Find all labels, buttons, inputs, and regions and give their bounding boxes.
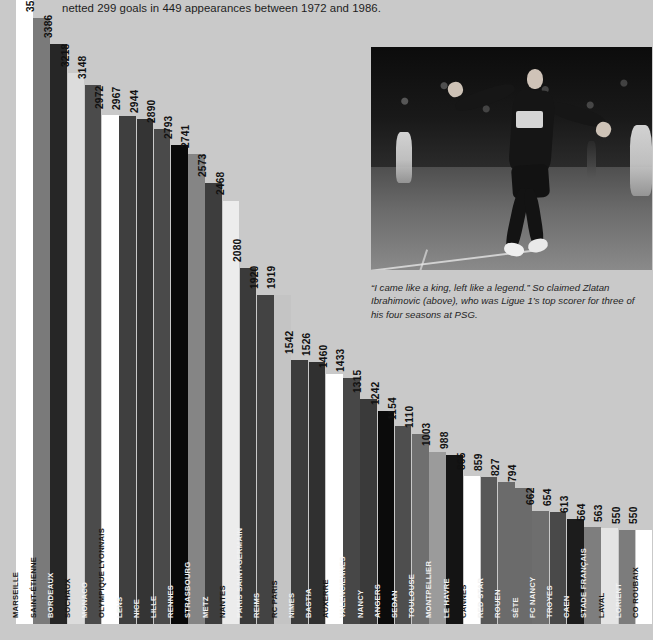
- bar-category-label: CO ROUBAIX: [631, 567, 640, 618]
- bar-column[interactable]: 2573METZ: [205, 0, 222, 624]
- bar-column[interactable]: 2741STRASBOURG: [188, 0, 205, 624]
- bar-column[interactable]: 2793RENNES: [171, 0, 188, 624]
- bar-category-label: RENNES: [166, 585, 175, 618]
- opponent-player-left: [396, 132, 411, 183]
- bar-value-label: 2741: [180, 125, 191, 148]
- bar-category-label: LE HAVRE: [442, 578, 451, 618]
- bar-value-label: 3218: [60, 43, 71, 66]
- photo-caption: “I came like a king, left like a legend.…: [371, 281, 647, 321]
- bar-column[interactable]: 1460AUXERRE: [326, 0, 343, 624]
- bar-value-label: 564: [576, 504, 587, 522]
- player-boot-left: [503, 241, 525, 258]
- bar-value-label: 1920: [249, 265, 260, 288]
- bar-column[interactable]: 2944NICE: [137, 0, 154, 624]
- bar-value-label: 613: [559, 495, 570, 513]
- bar-column[interactable]: 1920REIMS: [257, 0, 274, 624]
- bar-value-label: 2080: [232, 238, 243, 261]
- bar-column[interactable]: 3536SAINT-ÉTIENNE: [33, 0, 50, 624]
- bar-value-label: 2890: [146, 99, 157, 122]
- bar-value-label: 1433: [335, 349, 346, 372]
- bar-value-label: 2468: [215, 172, 226, 195]
- bar-value-label: 1542: [284, 330, 295, 353]
- bar-value-label: 865: [456, 452, 467, 470]
- bar-column[interactable]: 3386BORDEAUX: [50, 0, 67, 624]
- bar-rect[interactable]: [291, 360, 308, 624]
- bar-rect[interactable]: [119, 116, 136, 624]
- bar-column[interactable]: 1542NIMES: [291, 0, 308, 624]
- bar-value-label: 1315: [352, 369, 363, 392]
- bar-category-label: LILLE: [149, 596, 158, 618]
- bar-value-label: 1242: [370, 382, 381, 405]
- player-head: [527, 69, 543, 89]
- bar-category-label: BASTIA: [304, 588, 313, 618]
- bar-value-label: 2793: [163, 116, 174, 139]
- bar-category-label: METZ: [201, 596, 210, 618]
- bar-value-label: 662: [525, 487, 536, 505]
- bar-category-label: SAINT-ÉTIENNE: [29, 557, 38, 618]
- bar-value-label: 654: [542, 488, 553, 506]
- bar-category-label: STRASBOURG: [183, 561, 192, 618]
- bar-rect[interactable]: [33, 18, 50, 624]
- bar-value-label: 1154: [387, 397, 398, 420]
- bar-category-label: MONACO: [80, 582, 89, 618]
- bar-category-label: SEDAN: [390, 590, 399, 618]
- bar-category-label: PARIS SAINT-GERMAIN: [235, 528, 244, 618]
- bar-category-label: FC NANCY: [528, 577, 537, 618]
- bar-category-label: MONTPELLIER: [424, 561, 433, 618]
- opponent-player-right: [630, 125, 652, 196]
- player-photo: [371, 47, 652, 270]
- bar-value-label: 827: [490, 459, 501, 477]
- bar-value-label: 1003: [421, 423, 432, 446]
- bar-rect[interactable]: [50, 44, 67, 624]
- bar-category-label: NANCY: [356, 590, 365, 618]
- bar-column[interactable]: 2080PARIS SAINT-GERMAIN: [240, 0, 257, 624]
- photo-stage: [371, 47, 652, 270]
- bar-category-label: STADE FRANÇAIS: [579, 548, 588, 618]
- bar-value-label: 1110: [404, 405, 415, 427]
- bar-rect[interactable]: [171, 145, 188, 624]
- bar-rect[interactable]: [257, 295, 274, 624]
- bar-column[interactable]: 1433VALENCIENNES: [343, 0, 360, 624]
- bar-category-label: NANTES: [218, 585, 227, 618]
- jersey-sponsor-logo: [516, 111, 543, 128]
- bar-category-label: MARSEILLE: [11, 572, 20, 618]
- bar-category-label: CANNES: [459, 584, 468, 618]
- bar-category-label: RC PARIS: [270, 580, 279, 618]
- bar-rect[interactable]: [16, 0, 33, 624]
- bar-rect[interactable]: [205, 183, 222, 624]
- bar-category-label: TROYES: [545, 585, 554, 618]
- bar-category-label: LENS: [115, 597, 124, 618]
- bar-category-label: CAEN: [562, 595, 571, 618]
- bar-value-label: 1919: [266, 266, 277, 289]
- bar-value-label: 3386: [43, 14, 54, 37]
- bar-column[interactable]: 3218SOCHAUX: [68, 0, 85, 624]
- bar-value-label: 3536: [25, 0, 36, 12]
- bar-category-label: RED STAR: [476, 578, 485, 618]
- bar-column[interactable]: 1526BASTIA: [309, 0, 326, 624]
- bar-value-label: 794: [507, 464, 518, 482]
- bar-category-label: SOCHAUX: [63, 578, 72, 618]
- bar-rect[interactable]: [154, 129, 171, 624]
- bar-category-label: VALENCIENNES: [338, 556, 347, 618]
- pitch-line-secondary: [418, 250, 428, 270]
- bar-category-label: REIMS: [252, 593, 261, 618]
- bar-rect[interactable]: [68, 73, 85, 625]
- page-root: netted 299 goals in 449 appearances betw…: [0, 0, 653, 640]
- bar-category-label: BORDEAUX: [46, 573, 55, 618]
- bar-rect[interactable]: [137, 119, 154, 624]
- bar-rect[interactable]: [188, 154, 205, 624]
- bar-value-label: 563: [593, 504, 604, 522]
- bar-column[interactable]: 1919RC PARIS: [274, 0, 291, 624]
- bar-column[interactable]: 3641MARSEILLE: [16, 0, 33, 624]
- bar-category-label: LAVAL: [597, 593, 606, 618]
- bar-column[interactable]: 2890LILLE: [154, 0, 171, 624]
- bar-value-label: 2967: [111, 86, 122, 109]
- bar-value-label: 550: [628, 506, 639, 524]
- bar-value-label: 1460: [318, 344, 329, 367]
- bar-category-label: ANGERS: [373, 584, 382, 618]
- bar-category-label: NICE: [132, 599, 141, 618]
- bar-value-label: 2573: [197, 154, 208, 177]
- bar-category-label: TOULOUSE: [407, 574, 416, 618]
- player-jersey: [508, 88, 556, 171]
- bar-value-label: 3148: [77, 55, 88, 78]
